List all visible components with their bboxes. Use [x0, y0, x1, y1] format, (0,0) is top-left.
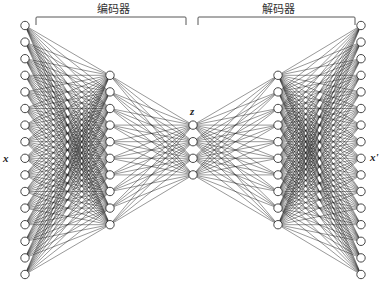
latent-node-3 [189, 171, 197, 179]
decoder-hidden-node-7 [274, 187, 282, 195]
output-node-9 [357, 171, 365, 179]
input-node-6 [21, 121, 29, 129]
encoder-hidden-node-3 [106, 121, 114, 129]
output-node-11 [357, 204, 365, 212]
autoencoder-diagram: 编码器 解码器 x z x' [0, 0, 383, 291]
encoder-hidden-node-9 [106, 221, 114, 229]
edge-decoder-hidden-9-to-output-14 [278, 225, 361, 258]
decoder-label: 解码器 [262, 2, 295, 16]
input-node-11 [21, 204, 29, 212]
input-node-0 [21, 21, 29, 29]
output-node-1 [357, 38, 365, 46]
output-node-8 [357, 154, 365, 162]
edge-encoder-hidden-1-to-latent-0 [110, 92, 193, 125]
input-node-2 [21, 55, 29, 63]
encoder-hidden-node-7 [106, 187, 114, 195]
edge-latent-3-to-decoder-hidden-9 [193, 175, 278, 225]
edge-latent-3-to-decoder-hidden-7 [193, 175, 278, 192]
input-node-3 [21, 71, 29, 79]
decoder-hidden-node-5 [274, 154, 282, 162]
output-node-6 [357, 121, 365, 129]
output-node-10 [357, 187, 365, 195]
decoder-hidden-node-9 [274, 221, 282, 229]
output-node-5 [357, 104, 365, 112]
output-node-0 [357, 21, 365, 29]
decoder-hidden-node-3 [274, 121, 282, 129]
input-node-10 [21, 187, 29, 195]
output-node-14 [357, 254, 365, 262]
edge-latent-0-to-decoder-hidden-0 [193, 75, 278, 125]
edge-latent-1-to-decoder-hidden-0 [193, 75, 278, 141]
latent-node-1 [189, 138, 197, 146]
output-node-7 [357, 138, 365, 146]
edge-encoder-hidden-2-to-latent-0 [110, 109, 193, 126]
neurons [21, 21, 365, 278]
edge-encoder-hidden-9-to-latent-1 [110, 142, 193, 225]
decoder-hidden-node-6 [274, 171, 282, 179]
input-node-7 [21, 138, 29, 146]
input-node-5 [21, 104, 29, 112]
input-node-9 [21, 171, 29, 179]
edge-input-15-to-encoder-hidden-8 [25, 208, 110, 274]
decoder-hidden-node-1 [274, 88, 282, 96]
input-node-4 [21, 88, 29, 96]
input-node-1 [21, 38, 29, 46]
encoder-hidden-node-1 [106, 88, 114, 96]
encoder-hidden-node-0 [106, 71, 114, 79]
encoder-bracket [36, 17, 186, 25]
edge-latent-3-to-decoder-hidden-8 [193, 175, 278, 208]
output-node-4 [357, 88, 365, 96]
edge-latent-2-to-decoder-hidden-0 [193, 75, 278, 158]
output-node-12 [357, 221, 365, 229]
decoder-hidden-node-2 [274, 104, 282, 112]
edge-encoder-hidden-9-to-latent-2 [110, 158, 193, 224]
latent-node-0 [189, 121, 197, 129]
input-node-14 [21, 254, 29, 262]
edge-encoder-hidden-0-to-latent-0 [110, 75, 193, 125]
input-node-12 [21, 221, 29, 229]
decoder-bracket [198, 17, 355, 25]
decoder-hidden-node-4 [274, 138, 282, 146]
output-label: x' [369, 151, 379, 163]
output-node-2 [357, 55, 365, 63]
edge-encoder-hidden-9-to-latent-3 [110, 175, 193, 225]
input-node-15 [21, 270, 29, 278]
latent-label: z [189, 105, 195, 117]
output-node-13 [357, 237, 365, 245]
input-label: x [2, 152, 9, 164]
input-node-8 [21, 154, 29, 162]
encoder-hidden-node-6 [106, 171, 114, 179]
encoder-hidden-node-2 [106, 104, 114, 112]
output-node-15 [357, 270, 365, 278]
input-node-13 [21, 237, 29, 245]
encoder-hidden-node-4 [106, 138, 114, 146]
connections [25, 26, 361, 275]
edge-input-1-to-encoder-hidden-0 [25, 42, 110, 75]
decoder-hidden-node-8 [274, 204, 282, 212]
edge-encoder-hidden-8-to-latent-0 [110, 125, 193, 208]
encoder-hidden-node-8 [106, 204, 114, 212]
edge-latent-3-to-decoder-hidden-1 [193, 92, 278, 175]
encoder-label: 编码器 [97, 2, 130, 16]
decoder-hidden-node-0 [274, 71, 282, 79]
output-node-3 [357, 71, 365, 79]
edge-decoder-hidden-1-to-output-0 [278, 26, 361, 92]
encoder-hidden-node-5 [106, 154, 114, 162]
latent-node-2 [189, 154, 197, 162]
